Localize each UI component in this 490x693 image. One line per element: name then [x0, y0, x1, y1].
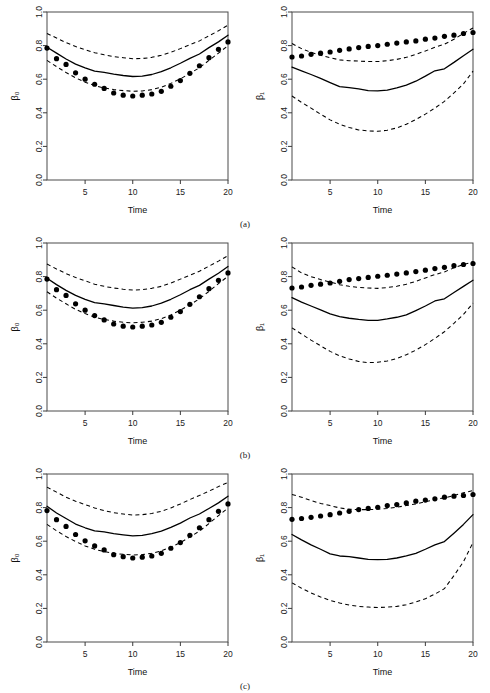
true-value-dot — [375, 274, 380, 279]
x-tick-label: 15 — [421, 418, 431, 428]
y-tick-label: 1.0 — [279, 6, 289, 18]
estimate-curve — [292, 49, 473, 91]
true-value-dot — [140, 93, 145, 98]
true-value-dot — [111, 552, 116, 557]
x-axis-title: Time — [373, 667, 393, 677]
true-value-dot — [140, 324, 145, 329]
true-value-dot — [111, 321, 116, 326]
true-value-dot — [187, 71, 192, 76]
true-value-dot — [375, 43, 380, 48]
confidence-band-curve — [47, 482, 228, 515]
true-value-dot — [83, 538, 88, 543]
y-tick-label: 0.2 — [279, 602, 289, 614]
y-tick-label: 1.0 — [279, 237, 289, 249]
true-value-dot — [83, 308, 88, 313]
true-value-dot — [54, 56, 59, 61]
y-tick-label: 0.8 — [279, 39, 289, 51]
true-value-dot — [347, 509, 352, 514]
y-tick-label: 0.2 — [279, 371, 289, 383]
true-value-dot — [121, 324, 126, 329]
plot-c-beta0: 0.00.20.40.60.81.05101520Timeβ₀ — [0, 462, 245, 693]
true-value-dot — [318, 51, 323, 56]
true-value-dot — [206, 286, 211, 291]
x-tick-label: 20 — [223, 649, 233, 659]
true-value-dot — [451, 494, 456, 499]
true-value-dot — [404, 270, 409, 275]
confidence-band-curve — [292, 71, 473, 131]
true-value-dot — [413, 38, 418, 43]
plot-a-beta0: 0.00.20.40.60.81.05101520Timeβ₀ — [0, 0, 245, 231]
true-value-dot — [216, 278, 221, 283]
true-value-dot — [385, 42, 390, 47]
x-tick-label: 15 — [421, 649, 431, 659]
true-value-dot — [461, 262, 466, 267]
true-value-dot — [308, 283, 313, 288]
y-tick-label: 1.0 — [34, 6, 44, 18]
true-value-dot — [328, 280, 333, 285]
y-tick-label: 0.4 — [279, 107, 289, 119]
true-value-dot — [216, 509, 221, 514]
true-value-dot — [63, 293, 68, 298]
x-tick-label: 5 — [328, 187, 333, 197]
y-tick-label: 0.4 — [279, 569, 289, 581]
x-axis-title: Time — [373, 436, 393, 446]
y-tick-label: 0.8 — [34, 501, 44, 513]
true-value-dot — [337, 48, 342, 53]
estimate-curve — [292, 515, 473, 560]
x-tick-label: 10 — [128, 649, 138, 659]
true-value-dot — [149, 91, 154, 96]
true-value-dot — [318, 513, 323, 518]
y-tick-label: 1.0 — [34, 468, 44, 480]
true-value-dot — [289, 517, 294, 522]
y-tick-label: 0.6 — [34, 535, 44, 547]
true-value-dot — [178, 78, 183, 83]
true-value-dot — [385, 273, 390, 278]
true-value-dot — [44, 277, 49, 282]
subfigure-caption-c: (c) — [0, 681, 490, 691]
x-tick-label: 15 — [176, 649, 186, 659]
true-value-dot — [442, 265, 447, 270]
true-value-dot — [413, 269, 418, 274]
true-value-dot — [54, 287, 59, 292]
true-value-dot — [187, 533, 192, 538]
y-axis-title: β₁ — [255, 92, 265, 100]
y-tick-label: 0.4 — [34, 569, 44, 581]
y-tick-label: 1.0 — [279, 468, 289, 480]
true-value-dot — [308, 515, 313, 520]
figure-container: 0.00.20.40.60.81.05101520Timeβ₀0.00.20.4… — [0, 0, 490, 693]
true-value-dot — [73, 70, 78, 75]
y-tick-label: 0.0 — [279, 405, 289, 417]
true-value-dot — [432, 35, 437, 40]
true-value-dot — [432, 496, 437, 501]
plot-box — [47, 12, 228, 180]
true-value-dot — [451, 33, 456, 38]
y-axis-title: β₁ — [255, 554, 265, 562]
true-value-dot — [289, 54, 294, 59]
x-tick-label: 5 — [328, 649, 333, 659]
true-value-dot — [73, 301, 78, 306]
true-value-dot — [63, 524, 68, 529]
x-tick-label: 10 — [373, 649, 383, 659]
y-axis-title: β₀ — [10, 322, 20, 331]
true-value-dot — [121, 554, 126, 559]
x-tick-label: 15 — [176, 418, 186, 428]
true-value-dot — [197, 63, 202, 68]
true-value-dot — [404, 500, 409, 505]
true-value-dot — [451, 263, 456, 268]
y-tick-label: 0.8 — [34, 39, 44, 51]
y-axis-title: β₁ — [255, 323, 265, 331]
true-value-dot — [385, 503, 390, 508]
true-value-dot — [130, 324, 135, 329]
true-value-dot — [216, 47, 221, 52]
true-value-dot — [92, 313, 97, 318]
true-value-dot — [102, 86, 107, 91]
x-tick-label: 5 — [328, 418, 333, 428]
true-value-dot — [197, 525, 202, 530]
plot-box — [47, 474, 228, 642]
true-value-dot — [225, 270, 230, 275]
true-value-dot — [130, 93, 135, 98]
x-tick-label: 15 — [176, 187, 186, 197]
true-value-dot — [168, 315, 173, 320]
true-value-dot — [347, 277, 352, 282]
plot-b-beta0: 0.00.20.40.60.81.05101520Timeβ₀ — [0, 231, 245, 462]
